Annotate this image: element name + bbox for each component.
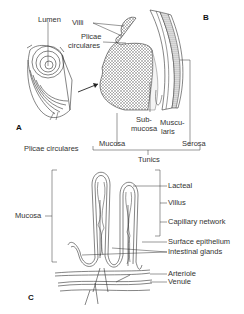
label-mucosa-b: Mucosa xyxy=(99,140,125,148)
label-plicae-line2: circulares xyxy=(68,42,100,50)
intestine-diagram xyxy=(0,0,244,314)
label-lumen: Lumen xyxy=(38,16,61,24)
label-muscularis-line2: laris xyxy=(161,128,175,136)
label-submucosa-line1: Sub- xyxy=(136,116,152,124)
label-muscularis-line1: Muscu- xyxy=(160,119,185,127)
label-tunics: Tunics xyxy=(138,156,160,164)
label-villi: Villi xyxy=(72,19,84,27)
label-intestinal-glands: Intestinal glands xyxy=(168,248,222,256)
panel-a-tube xyxy=(27,45,72,118)
label-surface-epithelium: Surface epithelium xyxy=(168,238,230,246)
label-villus: Villus xyxy=(168,199,186,207)
label-submucosa-line2: mucosa xyxy=(131,125,157,133)
panel-label-b: B xyxy=(203,13,209,22)
label-capillary-network: Capillary network xyxy=(168,218,226,226)
label-serosa: Serosa xyxy=(182,140,206,148)
panel-label-c: C xyxy=(28,293,34,302)
label-plicae-circulares-a: Plicae circulares xyxy=(24,145,79,153)
label-mucosa-c: Mucosa xyxy=(15,212,41,220)
panel-c-villi xyxy=(55,172,152,305)
label-lacteal: Lacteal xyxy=(168,182,192,190)
label-plicae-line1: Plicae xyxy=(81,33,101,41)
label-venule: Venule xyxy=(168,278,191,286)
panel-label-a: A xyxy=(16,123,22,132)
